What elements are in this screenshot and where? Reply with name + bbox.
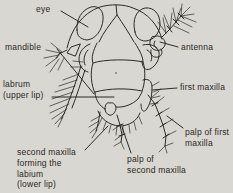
- label-palp-first-maxilla-line2: maxilla: [185, 138, 213, 148]
- labrum-plate: [95, 92, 142, 115]
- labium-plate: [98, 111, 140, 126]
- label-second-maxilla-line1: second maxilla: [17, 147, 76, 157]
- epicranial-suture: [99, 5, 134, 42]
- book-page: eye antenna mandible labrum (upper lip) …: [0, 0, 233, 193]
- label-first-maxilla: first maxilla: [180, 82, 225, 92]
- labrum-top-suture: [95, 89, 142, 92]
- label-mandible: mandible: [5, 42, 41, 52]
- label-second-maxilla-line2: forming the: [17, 158, 62, 168]
- left-maxilla-spine: [61, 66, 85, 119]
- label-antenna: antenna: [181, 42, 213, 52]
- label-labrum-line2: (upper lip): [3, 90, 43, 100]
- leader-first-maxilla: [152, 88, 177, 90]
- right-antenna-bristles: [158, 4, 196, 33]
- leader-palp-first-maxilla: [167, 116, 183, 128]
- label-eye: eye: [36, 4, 50, 14]
- leader-eye: [61, 11, 88, 27]
- left-maxilla-hairs: [50, 61, 83, 127]
- left-antenna-bristles: [44, 43, 64, 72]
- left-antenna: [56, 44, 80, 58]
- face-dot: [115, 72, 116, 73]
- label-second-maxilla-line4: (lower lip): [17, 179, 56, 189]
- first-maxilla-palp: [148, 95, 169, 146]
- head-drawing: [44, 4, 196, 153]
- label-palp-first-maxilla-line1: palp of first: [185, 127, 230, 137]
- clypeus-suture: [93, 60, 143, 63]
- first-maxilla-palp-bristles: [151, 91, 176, 153]
- figure-labels: eye antenna mandible labrum (upper lip) …: [3, 4, 230, 189]
- label-labrum-line1: labrum: [3, 79, 30, 89]
- right-maxilla-column: [141, 79, 152, 111]
- face-sides: [91, 43, 145, 93]
- head-capsule-outline: [67, 5, 162, 48]
- label-palp-second-maxilla-line2: second maxilla: [127, 165, 186, 175]
- leader-antenna: [160, 42, 178, 47]
- insect-head-figure: eye antenna mandible labrum (upper lip) …: [0, 0, 233, 193]
- label-second-maxilla-line3: labium: [17, 169, 43, 179]
- label-palp-second-maxilla-line1: palp of: [127, 154, 154, 164]
- right-antenna-flagellum: [162, 13, 184, 37]
